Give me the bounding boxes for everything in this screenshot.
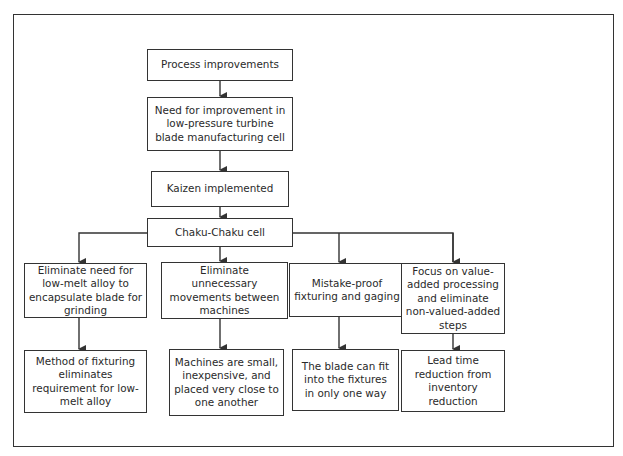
branch-1-result-label: Machines are small, inexpensive, and pla… (173, 356, 280, 410)
kaizen-implemented-label: Kaizen implemented (167, 182, 274, 196)
branch-2-action-label: Mistake-proof fixturing and gaging (293, 277, 401, 304)
branch-0-result-label: Method of fixturing eliminates requireme… (28, 355, 143, 409)
branch-0-result-box: Method of fixturing eliminates requireme… (24, 350, 147, 413)
chaku-chaku-cell-box: Chaku-Chaku cell (147, 218, 293, 247)
branch-0-action-label: Eliminate need for low-melt alloy to enc… (28, 264, 143, 318)
branch-2-action-box: Mistake-proof fixturing and gaging (289, 263, 405, 317)
need-for-improvement-box: Need for improvement in low-pressure tur… (147, 97, 293, 151)
need-for-improvement-label: Need for improvement in low-pressure tur… (154, 104, 286, 145)
branch-2-result-box: The blade can fit into the fixtures in o… (292, 349, 399, 411)
process-improvements-label: Process improvements (161, 58, 279, 72)
branch-1-result-box: Machines are small, inexpensive, and pla… (169, 349, 284, 416)
branch-2-result-label: The blade can fit into the fixtures in o… (299, 360, 392, 401)
branch-1-action-box: Eliminate unnecessary movements between … (161, 262, 288, 319)
branch-line-left (79, 233, 147, 262)
kaizen-implemented-box: Kaizen implemented (151, 171, 289, 207)
process-improvements-box: Process improvements (147, 49, 293, 81)
branch-3-result-label: Lead time reduction from inventory reduc… (405, 354, 501, 408)
branch-line-right (293, 233, 453, 262)
chaku-chaku-cell-label: Chaku-Chaku cell (175, 226, 265, 240)
branch-3-action-box: Focus on value-added processing and elim… (401, 263, 505, 334)
branch-0-action-box: Eliminate need for low-melt alloy to enc… (24, 263, 147, 318)
branch-3-result-box: Lead time reduction from inventory reduc… (401, 350, 505, 412)
branch-3-action-label: Focus on value-added processing and elim… (405, 265, 501, 333)
branch-1-action-label: Eliminate unnecessary movements between … (167, 264, 282, 318)
